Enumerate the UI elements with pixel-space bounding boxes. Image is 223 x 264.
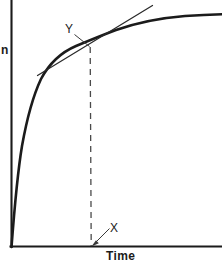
point-y-label: Y: [65, 22, 73, 36]
x-axis-label: Time: [106, 249, 135, 263]
point-x-label: X: [110, 221, 118, 235]
chart-figure: n Y X Time: [0, 0, 222, 264]
chart-canvas: n Y X Time: [0, 0, 222, 264]
drop-line-dashed: [90, 47, 91, 246]
growth-curve: [12, 14, 223, 247]
tangent-line: [38, 6, 153, 76]
y-axis-label: n: [1, 43, 8, 57]
